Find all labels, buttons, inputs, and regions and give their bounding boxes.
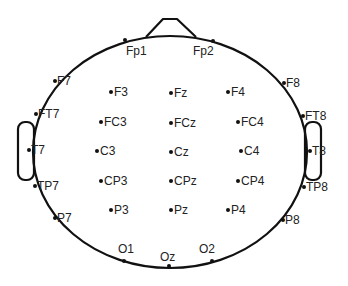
electrode-label: F8 [286,76,300,90]
electrode-fc3: FC3 [99,115,127,129]
background [0,0,348,286]
electrode-label: Oz [160,250,175,264]
electrode-ft7: FT7 [34,107,60,121]
electrode-dot-icon [169,91,173,95]
electrode-label: O1 [118,242,134,256]
electrode-dot-icon [210,259,214,263]
electrode-dot-icon [122,259,126,263]
electrode-label: TP8 [306,180,328,194]
electrode-label: FCz [174,116,196,130]
electrode-label: CPz [174,174,197,188]
eeg-head-diagram: Fp1Fp2F7F8FT7FT8T7T8TP7TP8P7P8O1OzO2F3Fz… [0,0,348,286]
electrode-dot-icon [226,208,230,212]
electrode-dot-icon [236,179,240,183]
electrode-cp4: CP4 [236,174,265,188]
electrode-dot-icon [239,149,243,153]
electrode-dot-icon [211,39,215,43]
electrode-tp8: TP8 [302,180,328,194]
electrode-dot-icon [167,264,171,268]
electrode-label: F7 [57,74,71,88]
electrode-label: Fp1 [126,44,147,58]
electrode-label: Fz [174,86,187,100]
electrode-label: T8 [312,144,326,158]
electrode-dot-icon [95,149,99,153]
electrode-cp3: CP3 [99,174,128,188]
electrode-dot-icon [109,208,113,212]
electrode-dot-icon [99,179,103,183]
electrode-label: Fp2 [193,44,214,58]
electrode-label: FT8 [305,109,327,123]
electrode-ft8: FT8 [301,109,327,123]
electrode-dot-icon [169,179,173,183]
electrode-dot-icon [226,90,230,94]
electrode-label: P8 [285,213,300,227]
electrode-dot-icon [236,120,240,124]
electrode-label: C4 [244,144,260,158]
electrode-tp7: TP7 [33,179,59,193]
electrode-label: O2 [199,242,215,256]
electrode-label: FT7 [38,107,60,121]
electrode-dot-icon [169,208,173,212]
electrode-cpz: CPz [169,174,197,188]
electrode-dot-icon [99,120,103,124]
electrode-fc4: FC4 [236,115,264,129]
electrode-fcz: FCz [169,116,196,130]
electrode-label: C3 [100,144,116,158]
electrode-dot-icon [109,90,113,94]
electrode-label: T7 [31,143,45,157]
electrode-label: CP4 [241,174,265,188]
electrode-label: Cz [174,145,189,159]
electrode-label: P3 [114,203,129,217]
electrode-label: F4 [231,85,245,99]
electrode-label: P7 [57,211,72,225]
electrode-label: CP3 [104,174,128,188]
electrode-label: TP7 [37,179,59,193]
electrode-dot-icon [123,38,127,42]
electrode-label: F3 [114,85,128,99]
electrode-label: FC3 [104,115,127,129]
electrode-label: Pz [174,203,188,217]
electrode-label: FC4 [241,115,264,129]
electrode-dot-icon [169,121,173,125]
electrode-label: P4 [231,203,246,217]
electrode-dot-icon [169,150,173,154]
